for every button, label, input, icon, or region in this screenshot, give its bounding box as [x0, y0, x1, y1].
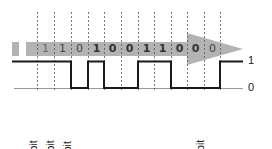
- start-bit-label: Start bit: [206, 96, 218, 136]
- stop-bit-label: Stop bit: [39, 96, 51, 136]
- bit-value: 0: [204, 42, 221, 56]
- bit-value: 0: [187, 42, 204, 56]
- high-level-label: 1: [248, 54, 254, 66]
- bit-value: 0: [104, 42, 121, 56]
- bit-value: 1: [88, 42, 105, 56]
- bit-value: 1: [54, 42, 71, 56]
- bit-value: 0: [171, 42, 188, 56]
- bit-value: 1: [138, 42, 155, 56]
- parity-bit-label: Parity bit: [73, 96, 85, 136]
- signal-waveform: [12, 62, 243, 89]
- stop-bit-label: Stop bit: [56, 96, 68, 136]
- bit-value: 0: [71, 42, 88, 56]
- bit-value: 0: [121, 42, 138, 56]
- bit-value: 1: [154, 42, 171, 56]
- low-level-label: 0: [248, 81, 254, 93]
- serial-frame-diagram: 1 1 0 1 0 0 1 1 0 0 0 1 0 Stop bit Stop …: [0, 0, 272, 149]
- bit-value: 1: [37, 42, 54, 56]
